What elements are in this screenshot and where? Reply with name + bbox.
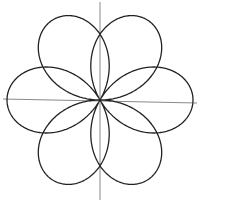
rose-curve-plot [0, 0, 227, 201]
